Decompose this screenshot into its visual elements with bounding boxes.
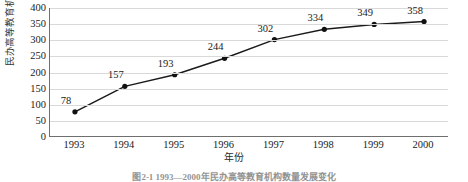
y-tick-label: 350 bbox=[30, 19, 46, 29]
data-point-label: 78 bbox=[61, 96, 72, 106]
gridline bbox=[50, 24, 448, 25]
data-point-marker bbox=[322, 27, 327, 32]
data-point-label: 157 bbox=[108, 70, 124, 80]
data-point-label: 358 bbox=[407, 6, 423, 16]
y-tick-label: 300 bbox=[30, 35, 46, 45]
x-tick-label: 1997 bbox=[263, 139, 284, 151]
gridline bbox=[50, 121, 448, 122]
x-axis-title: 年份 bbox=[0, 152, 468, 164]
y-tick-label: 400 bbox=[30, 3, 46, 13]
y-tick-label: 150 bbox=[30, 84, 46, 94]
data-point-label: 349 bbox=[357, 8, 373, 18]
gridline bbox=[50, 40, 448, 41]
y-tick-label: 100 bbox=[30, 100, 46, 110]
y-tick-label: 250 bbox=[30, 51, 46, 61]
x-axis-tick-labels: 19931994199519961997199819992000 bbox=[49, 139, 448, 152]
gridline bbox=[50, 105, 448, 106]
x-tick-label: 1993 bbox=[63, 139, 84, 151]
data-point-marker bbox=[72, 109, 77, 114]
series-line bbox=[75, 22, 424, 112]
x-tick-label: 1998 bbox=[313, 139, 334, 151]
x-tick-label: 1999 bbox=[363, 139, 384, 151]
y-tick-label: 0 bbox=[41, 132, 46, 142]
data-point-label: 302 bbox=[258, 24, 274, 34]
gridline bbox=[50, 8, 448, 9]
data-point-label: 244 bbox=[208, 42, 224, 52]
data-point-label: 334 bbox=[307, 13, 323, 23]
x-tick-label: 2000 bbox=[413, 139, 434, 151]
x-tick-label: 1995 bbox=[163, 139, 184, 151]
data-point-label: 193 bbox=[158, 59, 174, 69]
figure-caption: 图2-1 1993—2000年民办高等教育机构数量发展变化 bbox=[0, 172, 468, 182]
y-axis-title: 民办高等教育机构数量/所 bbox=[3, 0, 17, 77]
y-tick-label: 50 bbox=[36, 116, 47, 126]
y-tick-label: 200 bbox=[30, 68, 46, 78]
figure-line-chart: 民办高等教育机构数量/所 400350300250200150100500 78… bbox=[0, 0, 468, 182]
x-tick-label: 1996 bbox=[213, 139, 234, 151]
x-tick-label: 1994 bbox=[113, 139, 134, 151]
plot-area: 78157193244302334349358 bbox=[49, 8, 448, 137]
gridline bbox=[50, 89, 448, 90]
y-axis-tick-labels: 400350300250200150100500 bbox=[20, 3, 46, 137]
gridline bbox=[50, 56, 448, 57]
